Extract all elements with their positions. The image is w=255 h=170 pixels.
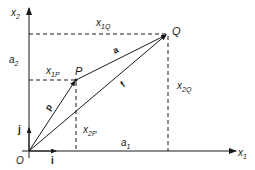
point-q-label: Q (172, 25, 181, 37)
vector-diagram: x2 x1 O j i P Q p a f x1Q x1P a2 x2Q x2P… (0, 0, 255, 170)
unit-vector-i-label: i (51, 155, 54, 166)
x2Q-label: x2Q (176, 80, 192, 94)
point-p-marker (75, 79, 78, 82)
x2P-label: x2P (82, 124, 97, 137)
x1P-label: x1P (45, 65, 60, 78)
vector-f-label: f (118, 79, 127, 89)
a1-label: a1 (121, 137, 131, 150)
unit-vector-j-label: j (17, 124, 21, 135)
vector-p-label: p (43, 102, 55, 112)
point-p-label: P (75, 65, 83, 77)
a2-label: a2 (9, 54, 19, 67)
vector-f (29, 35, 166, 151)
x1-axis-label: x1 (237, 147, 247, 160)
x2-axis-label: x2 (10, 7, 20, 20)
origin-label: O (16, 155, 24, 166)
x1Q-label: x1Q (95, 17, 111, 31)
vector-p (29, 81, 75, 151)
vector-a-label: a (111, 44, 121, 56)
